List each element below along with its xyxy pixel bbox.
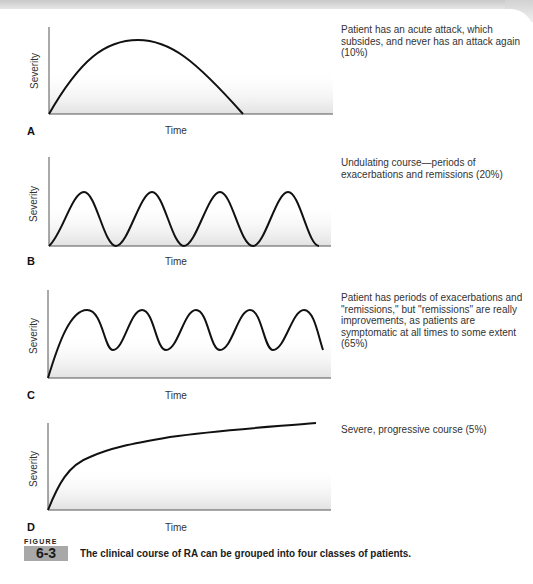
panel-letter-d: D xyxy=(27,521,35,533)
figure-number-badge: 6-3 xyxy=(24,546,68,561)
figure-caption: The clinical course of RA can be grouped… xyxy=(80,547,411,559)
plot-fill-d xyxy=(48,466,331,510)
chart-d-plot xyxy=(0,0,533,584)
description-d: Severe, progressive course (5%) xyxy=(341,424,531,436)
y-axis-label-d: Severity xyxy=(28,451,39,487)
x-axis-label-d: Time xyxy=(165,522,187,533)
figure-word-label: FIGURE xyxy=(24,537,58,545)
